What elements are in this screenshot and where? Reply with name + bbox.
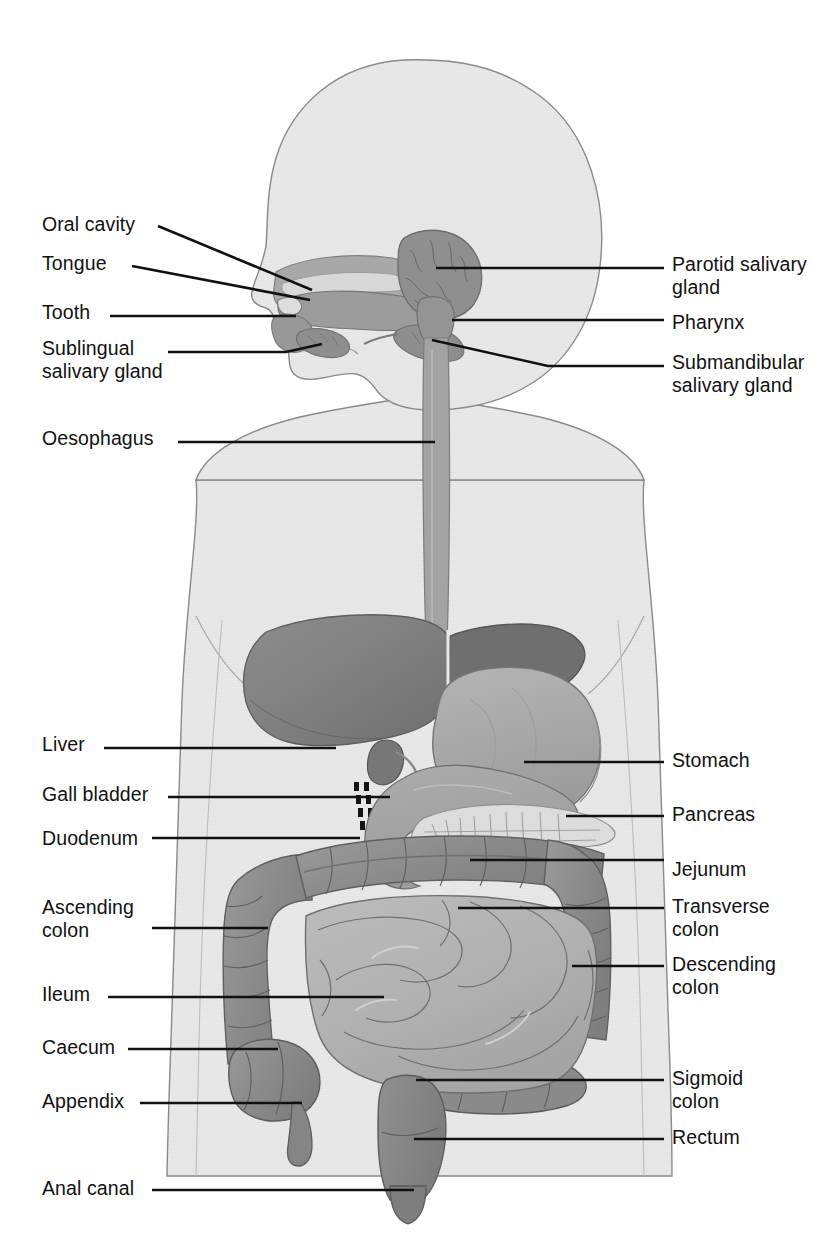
label-caecum: Caecum [42, 1036, 115, 1059]
label-sublingual-salivary-gland: Sublingual salivary gland [42, 337, 163, 383]
label-descending-colon: Descending colon [672, 953, 776, 999]
shoulders-shape [196, 400, 644, 480]
label-rectum: Rectum [672, 1126, 740, 1149]
label-anal-canal: Anal canal [42, 1177, 134, 1200]
label-oral-cavity: Oral cavity [42, 213, 135, 236]
rectum-shape [378, 1075, 446, 1200]
label-gall-bladder: Gall bladder [42, 783, 148, 806]
label-transverse-colon: Transverse colon [672, 895, 770, 941]
label-pancreas: Pancreas [672, 803, 755, 826]
label-sigmoid-colon: Sigmoid colon [672, 1067, 743, 1113]
label-appendix: Appendix [42, 1090, 124, 1113]
liver-left-lobe-shape [243, 615, 448, 746]
small-intestine-group [306, 896, 597, 1093]
pharynx-shape [417, 297, 454, 340]
caecum-shape [229, 1039, 320, 1121]
label-tongue: Tongue [42, 252, 107, 275]
label-duodenum: Duodenum [42, 827, 138, 850]
label-stomach: Stomach [672, 749, 750, 772]
diagram-canvas [0, 0, 840, 1248]
label-oesophagus: Oesophagus [42, 427, 154, 450]
rectum-group [378, 1075, 446, 1224]
label-pharynx: Pharynx [672, 311, 744, 334]
label-parotid-salivary-gland: Parotid salivary gland [672, 253, 807, 299]
label-tooth: Tooth [42, 301, 90, 324]
label-submandibular-salivary-gland: Submandibular salivary gland [672, 351, 804, 397]
digestive-system-svg [0, 0, 840, 1248]
label-ascending-colon: Ascending colon [42, 896, 134, 942]
small-intestine-mass-shape [306, 896, 597, 1093]
label-ileum: Ileum [42, 983, 90, 1006]
label-liver: Liver [42, 733, 85, 756]
anal-canal-shape [390, 1186, 426, 1224]
label-jejunum: Jejunum [672, 858, 746, 881]
